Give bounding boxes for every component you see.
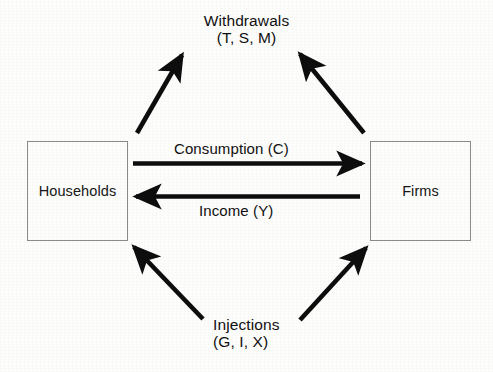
- node-households: Households: [27, 141, 128, 241]
- node-firms-label: Firms: [402, 183, 439, 199]
- label-withdrawals-title: Withdrawals: [204, 12, 290, 29]
- node-households-label: Households: [39, 183, 117, 199]
- label-income: Income (Y): [199, 202, 273, 219]
- label-withdrawals-detail: (T, S, M): [0, 29, 493, 46]
- label-injections-title: Injections: [213, 316, 279, 333]
- label-injections-detail: (G, I, X): [213, 333, 279, 350]
- label-consumption: Consumption (C): [174, 140, 289, 157]
- arrow-injections-to-households: [134, 247, 203, 319]
- circular-flow-diagram: Households Firms Withdrawals (T, S, M) I…: [0, 0, 493, 372]
- label-withdrawals: Withdrawals (T, S, M): [0, 12, 493, 47]
- arrow-firms-to-withdrawals: [300, 54, 364, 133]
- node-firms: Firms: [370, 141, 471, 241]
- arrow-injections-to-firms: [300, 248, 366, 320]
- arrow-households-to-withdrawals: [137, 55, 182, 133]
- label-injections: Injections (G, I, X): [213, 316, 279, 351]
